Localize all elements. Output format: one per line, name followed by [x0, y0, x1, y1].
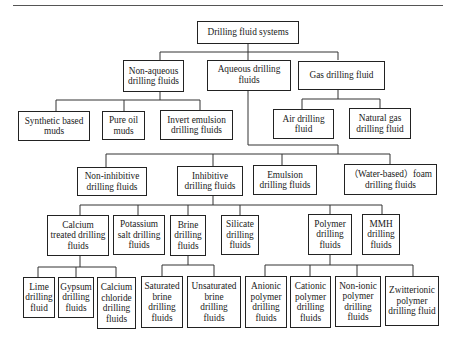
node-pure-oil-muds: Pure oil muds [102, 111, 145, 140]
node-inhibitive: Inhibitive drilling fluids [177, 166, 243, 196]
node-unsaturated-brine: Unsaturated brine drilling fluids [187, 276, 241, 328]
node-anionic-polymer: Anionic polymer drilling fluids [245, 276, 287, 328]
node-drilling-fluid-systems: Drilling fluid systems [197, 21, 299, 44]
node-non-aqueous: Non-aqueous drilling fluids [123, 60, 184, 92]
node-calcium-treated: Calcium treated drilling fluids [47, 215, 109, 256]
node-emulsion: Emulsion drilling fluids [253, 165, 317, 195]
node-non-inhibitive: Non-inhibitive drilling fluids [77, 167, 147, 196]
node-brine: Brine drilling fluids [170, 215, 206, 256]
node-non-ionic-polymer: Non-ionic polymer drilling fluids [335, 276, 381, 327]
node-silicate: Silicate drilling fluids [221, 215, 259, 255]
node-calcium-chloride: Calcium chloride drilling fluids [97, 277, 136, 329]
node-air-drilling-fluid: Air drilling fluid [273, 109, 334, 139]
node-gas: Gas drilling fluid [298, 61, 385, 90]
node-cationic-polymer: Cationic polymer drilling fluids [290, 276, 331, 328]
node-saturated-brine: Saturated brine drilling fluids [141, 276, 183, 328]
node-natural-gas: Natural gas drilling fluid [349, 108, 411, 139]
node-aqueous: Aqueous drilling fluids [207, 60, 291, 91]
node-polymer: Polymer drilling fluids [308, 214, 352, 255]
node-mmh: MMH drilling fluids [362, 214, 400, 255]
node-potassium-salt: Potassium salt drilling fluids [113, 215, 165, 255]
node-gypsum: Gypsum drilling fluids [58, 277, 94, 318]
node-zwitterionic-polymer: Zwitterionic polymer drilling fluid [385, 276, 439, 326]
node-water-based-foam: （Water-based）foam drilling fluids [344, 164, 437, 195]
node-invert-emulsion: Invert emulsion drilling fluids [160, 110, 233, 140]
node-lime: Lime drilling fluid [23, 277, 55, 318]
node-synthetic-based-muds: Synthetic based muds [18, 111, 90, 141]
